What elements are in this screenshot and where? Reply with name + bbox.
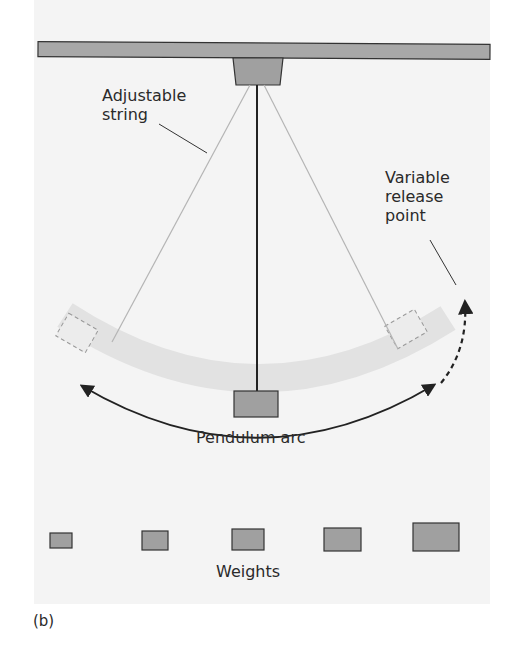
panel-label: (b)	[33, 612, 54, 631]
weight-5	[413, 523, 459, 551]
weight-1	[50, 533, 72, 548]
adjustable-string-label: Adjustable string	[102, 86, 186, 124]
weight-3	[232, 529, 264, 550]
pendulum-arc-label: Pendulum arc	[196, 428, 305, 447]
variable-release-line1: Variable	[385, 168, 450, 187]
adjustable-string-line1: Adjustable	[102, 86, 186, 105]
variable-release-line2: release	[385, 187, 450, 206]
variable-release-line3: point	[385, 206, 450, 225]
release-label-leader	[430, 240, 456, 285]
pivot-mount	[233, 58, 283, 85]
weights-label: Weights	[216, 562, 280, 581]
ceiling-beam	[38, 42, 490, 60]
pendulum-bob	[234, 391, 278, 417]
variable-release-label: Variable release point	[385, 168, 450, 225]
weight-4	[324, 528, 361, 551]
weight-2	[142, 531, 168, 550]
adjustable-string-line2: string	[102, 105, 186, 124]
string-label-leader	[159, 124, 207, 153]
adjustable-string-right	[264, 85, 398, 349]
